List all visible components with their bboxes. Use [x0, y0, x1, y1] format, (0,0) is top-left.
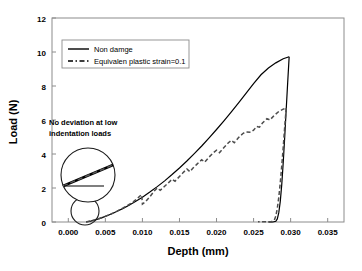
x-tick-label: 0.035: [318, 228, 339, 237]
x-tick-label: 0.025: [244, 228, 265, 237]
annotation-line-2: indentation loads: [49, 129, 111, 138]
y-axis-title: Load (N): [7, 99, 19, 144]
x-tick-label: 0.000: [58, 228, 79, 237]
legend-label-equivalent-plastic-strain: Equivalen plastic strain=0.1: [94, 57, 186, 66]
legend-label-non-damge: Non damge: [94, 45, 133, 54]
y-tick-label: 2: [42, 185, 47, 194]
chart-legend: Non damge Equivalen plastic strain=0.1: [62, 40, 189, 68]
y-tick-label: 8: [42, 83, 47, 92]
magnified-inset: [61, 148, 115, 202]
x-tick-label: 0.015: [169, 228, 190, 237]
x-tick-label: 0.030: [281, 228, 302, 237]
y-tick-label: 6: [42, 117, 47, 126]
x-tick-label: 0.010: [132, 228, 153, 237]
x-tick-label: 0.005: [95, 228, 116, 237]
x-axis-title: Depth (mm): [167, 245, 228, 257]
y-tick-label: 10: [37, 49, 46, 58]
y-tick-label: 12: [37, 15, 46, 24]
y-tick-label: 4: [42, 151, 47, 160]
load-depth-chart: 0.0000.0050.0100.0150.0200.0250.0300.035…: [0, 0, 362, 271]
annotation-line-1: No deviation at low: [49, 118, 118, 127]
chart-figure: 0.0000.0050.0100.0150.0200.0250.0300.035…: [0, 0, 362, 271]
y-tick-label: 0: [42, 219, 47, 228]
x-tick-label: 0.020: [207, 228, 228, 237]
